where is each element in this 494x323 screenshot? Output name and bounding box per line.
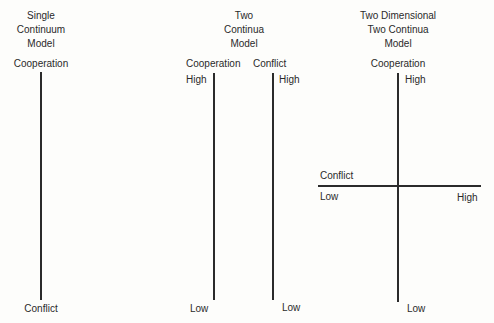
cooperation-high-label: High <box>405 74 426 86</box>
conflict-high-label: High <box>279 74 300 86</box>
two-dimensional-title: Two Dimensional Two Continua Model <box>360 9 436 51</box>
cooperation-vertical-axis <box>397 73 399 302</box>
cooperation-axis-line <box>213 73 215 300</box>
cooperation-axis-label: Cooperation <box>371 58 425 70</box>
title-line: Model <box>224 37 264 51</box>
conflict-high-label: High <box>457 192 478 204</box>
title-line: Continuum <box>17 23 65 37</box>
title-line: Single <box>17 9 65 23</box>
conflict-label: Conflict <box>24 303 57 315</box>
title-line: Model <box>17 37 65 51</box>
conflict-axis-label: Conflict <box>253 58 286 70</box>
conflict-axis-label: Conflict <box>320 170 353 182</box>
title-line: Continua <box>224 23 264 37</box>
cooperation-high-label: High <box>186 74 207 86</box>
cooperation-low-label: Low <box>190 303 208 315</box>
cooperation-low-label: Low <box>407 303 425 315</box>
title-line: Model <box>360 37 436 51</box>
conflict-horizontal-axis <box>318 185 481 187</box>
title-line: Two Dimensional <box>360 9 436 23</box>
title-line: Two <box>224 9 264 23</box>
conflict-low-label: Low <box>320 191 338 203</box>
two-continua-title: Two Continua Model <box>224 9 264 51</box>
title-line: Two Continua <box>360 23 436 37</box>
continuum-line <box>40 72 42 300</box>
single-continuum-title: Single Continuum Model <box>17 9 65 51</box>
cooperation-axis-label: Cooperation <box>186 58 240 70</box>
conflict-axis-line <box>272 73 274 300</box>
conflict-low-label: Low <box>282 302 300 314</box>
cooperation-label: Cooperation <box>14 58 68 70</box>
